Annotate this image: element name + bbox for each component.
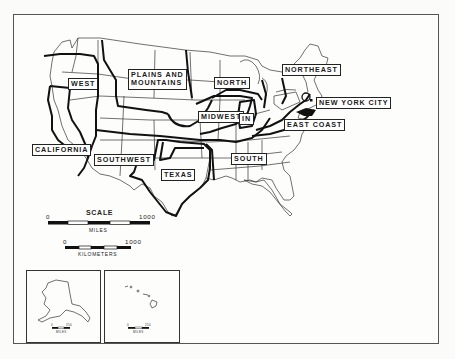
alaska-scale-end: 250 — [66, 323, 72, 327]
region-label-new-york-city: NEW YORK CITY — [316, 97, 391, 109]
scale-bar-kilometers — [65, 246, 131, 249]
plains-line-2: MOUNTAINS — [131, 79, 184, 87]
region-label-plains-and-mountains: PLAINS AND MOUNTAINS — [128, 69, 187, 90]
scale-miles-start: 0 — [46, 213, 50, 220]
region-label-south: SOUTH — [231, 153, 267, 165]
region-label-north: NORTH — [214, 77, 250, 89]
scale-km-unit: KILOMETERS — [78, 251, 117, 257]
hawaii-scale-start: 0 — [127, 323, 129, 327]
region-borders — [44, 40, 314, 216]
scale-bar-miles — [48, 221, 150, 225]
region-label-east-coast: EAST COAST — [284, 119, 345, 131]
scale-miles-unit: MILES — [89, 227, 108, 233]
nyc-square-marker — [310, 99, 313, 102]
scale-miles-end: 1000 — [139, 213, 156, 220]
region-label-texas: TEXAS — [161, 169, 195, 181]
region-label-northeast: NORTHEAST — [282, 64, 341, 76]
region-label-california: CALIFORNIA — [32, 144, 91, 156]
scale-title: SCALE — [86, 209, 113, 216]
region-label-southwest: SOUTHWEST — [94, 154, 154, 166]
hawaii-scale-unit: MILES — [133, 330, 144, 334]
alaska-scale-start: 0 — [51, 323, 53, 327]
scale-km-end: 1000 — [125, 238, 142, 245]
scale-km-start: 0 — [63, 238, 67, 245]
alaska-scale-unit: MILES — [56, 330, 67, 334]
region-label-west: WEST — [68, 78, 98, 90]
region-label-midwest: MIDWEST — [198, 111, 244, 123]
hawaii-scale-end: 250 — [145, 323, 151, 327]
region-label-in: IN — [239, 113, 254, 125]
